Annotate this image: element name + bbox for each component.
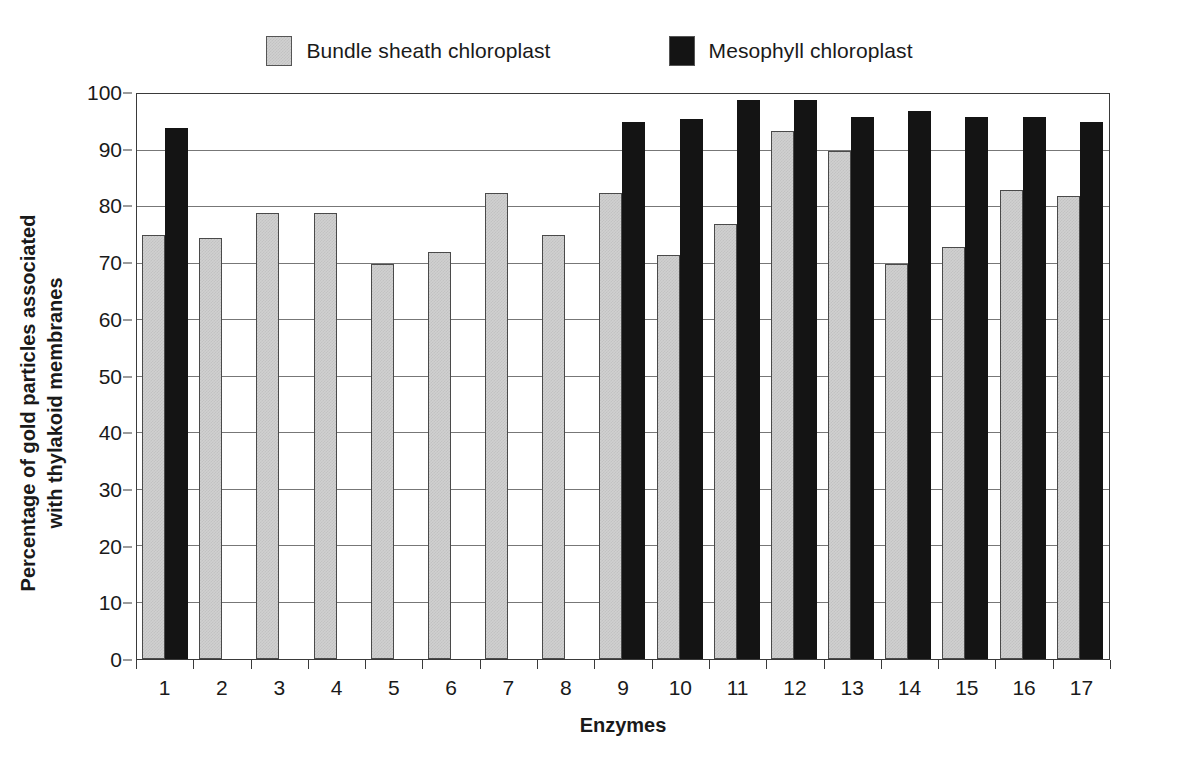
x-axis-title: Enzymes	[136, 714, 1110, 737]
bar-bundle-sheath-14	[885, 264, 908, 660]
x-tick-label-8: 8	[537, 676, 594, 706]
bar-bundle-sheath-13	[828, 151, 851, 660]
y-tick-mark-30	[123, 489, 132, 490]
bar-bundle-sheath-9	[599, 193, 622, 659]
bar-group-1	[137, 94, 194, 659]
x-tick-label-12: 12	[766, 676, 823, 706]
x-tick-label-3: 3	[251, 676, 308, 706]
bar-bundle-sheath-3	[256, 213, 279, 659]
grey-swatch-icon	[266, 36, 292, 66]
bar-bundle-sheath-15	[942, 247, 965, 659]
bar-group-17	[1052, 94, 1109, 659]
bar-bundle-sheath-6	[428, 252, 451, 659]
black-swatch-icon	[669, 36, 695, 66]
x-tick-label-6: 6	[422, 676, 479, 706]
y-tick-mark-50	[123, 376, 132, 377]
bar-bundle-sheath-5	[371, 264, 394, 660]
x-tick-label-13: 13	[824, 676, 881, 706]
bar-mesophyll-10	[680, 119, 703, 659]
y-tick-label-60: 60	[99, 308, 122, 332]
chart-plot-area	[136, 93, 1110, 660]
bar-mesophyll-1	[165, 128, 188, 659]
x-tick-mark-9	[652, 660, 653, 669]
x-tick-label-1: 1	[136, 676, 193, 706]
bar-mesophyll-13	[851, 117, 874, 659]
y-axis-title: Percentage of gold particles associated …	[15, 143, 69, 663]
bar-group-4	[309, 94, 366, 659]
x-tick-mark-16	[1053, 660, 1054, 669]
x-tick-label-2: 2	[193, 676, 250, 706]
y-tick-mark-100	[123, 93, 132, 94]
bar-bundle-sheath-8	[542, 235, 565, 659]
legend-label-mesophyll: Mesophyll chloroplast	[709, 39, 913, 63]
bar-group-9	[594, 94, 651, 659]
y-axis-title-line-1: Percentage of gold particles associated	[15, 143, 42, 663]
bar-group-7	[480, 94, 537, 659]
bar-group-12	[766, 94, 823, 659]
bar-group-5	[366, 94, 423, 659]
y-tick-label-20: 20	[99, 535, 122, 559]
bar-mesophyll-15	[965, 117, 988, 659]
bar-group-11	[709, 94, 766, 659]
x-tick-mark-2	[251, 660, 252, 669]
x-tick-label-4: 4	[308, 676, 365, 706]
bar-bundle-sheath-2	[199, 238, 222, 659]
x-tick-label-14: 14	[881, 676, 938, 706]
bar-group-3	[251, 94, 308, 659]
y-tick-label-40: 40	[99, 421, 122, 445]
bar-bundle-sheath-1	[142, 235, 165, 659]
x-tick-label-17: 17	[1053, 676, 1110, 706]
x-tick-mark-6	[480, 660, 481, 669]
x-tick-label-7: 7	[480, 676, 537, 706]
x-tick-mark-1	[193, 660, 194, 669]
bar-group-6	[423, 94, 480, 659]
bar-bundle-sheath-16	[1000, 190, 1023, 659]
x-tick-mark-8	[594, 660, 595, 669]
bar-mesophyll-9	[622, 122, 645, 659]
x-tick-mark-12	[824, 660, 825, 669]
bar-group-13	[823, 94, 880, 659]
x-tick-mark-0	[136, 660, 137, 669]
x-tick-label-11: 11	[709, 676, 766, 706]
x-axis-labels: 1234567891011121314151617	[136, 676, 1110, 706]
bar-bundle-sheath-17	[1057, 196, 1080, 659]
bar-mesophyll-17	[1080, 122, 1103, 659]
y-tick-mark-80	[123, 206, 132, 207]
x-tick-mark-15	[995, 660, 996, 669]
x-tick-label-15: 15	[938, 676, 995, 706]
y-tick-mark-10	[123, 603, 132, 604]
y-tick-mark-0	[123, 660, 132, 661]
y-tick-label-10: 10	[99, 591, 122, 615]
y-tick-label-50: 50	[99, 365, 122, 389]
y-tick-label-100: 100	[87, 81, 122, 105]
x-axis-ticks	[136, 660, 1110, 670]
x-tick-mark-3	[308, 660, 309, 669]
bar-bundle-sheath-12	[771, 131, 794, 659]
x-tick-label-10: 10	[652, 676, 709, 706]
y-tick-mark-20	[123, 546, 132, 547]
bar-bundle-sheath-10	[657, 255, 680, 659]
y-tick-mark-60	[123, 319, 132, 320]
bar-mesophyll-14	[908, 111, 931, 659]
y-axis: 0102030405060708090100	[88, 93, 132, 660]
bar-mesophyll-16	[1023, 117, 1046, 659]
x-tick-mark-13	[881, 660, 882, 669]
chart-legend: Bundle sheath chloroplast Mesophyll chlo…	[0, 36, 1179, 66]
y-tick-label-70: 70	[99, 251, 122, 275]
y-axis-title-line-2: with thylakoid membranes	[42, 143, 69, 663]
x-tick-mark-10	[709, 660, 710, 669]
y-tick-mark-40	[123, 433, 132, 434]
legend-entry-bundle-sheath: Bundle sheath chloroplast	[266, 36, 550, 66]
y-tick-mark-90	[123, 149, 132, 150]
x-tick-mark-14	[938, 660, 939, 669]
y-tick-label-0: 0	[110, 648, 122, 672]
legend-label-bundle-sheath: Bundle sheath chloroplast	[306, 39, 550, 63]
x-tick-label-9: 9	[594, 676, 651, 706]
bar-group-8	[537, 94, 594, 659]
x-tick-mark-7	[537, 660, 538, 669]
bar-group-16	[995, 94, 1052, 659]
bar-mesophyll-11	[737, 100, 760, 659]
x-tick-mark-17	[1110, 660, 1111, 669]
x-tick-label-5: 5	[365, 676, 422, 706]
y-tick-label-30: 30	[99, 478, 122, 502]
